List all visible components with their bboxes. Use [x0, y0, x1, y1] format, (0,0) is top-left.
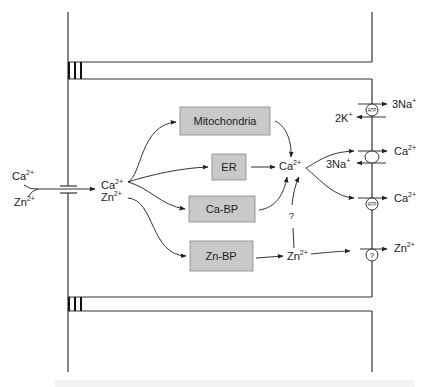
arrow-zn-bp-to-zn: [256, 256, 283, 258]
arrow-ca-to-atpase: [306, 168, 354, 198]
er-label: ER: [221, 161, 236, 173]
ca-bp-label: Ca-BP: [206, 203, 238, 215]
unknown-link-label: ?: [289, 211, 294, 221]
exchanger-ca-out-label: Ca2+: [394, 144, 416, 157]
arrow-to-zn-bp: [128, 198, 186, 256]
arrow-to-ca-bp: [128, 182, 185, 209]
na-out-label: 3Na+: [392, 97, 416, 110]
transporter-na-ca-exchanger: Ca2+ 3Na+: [326, 144, 416, 170]
cytosol-ions: Ca2+ Zn2+: [101, 178, 123, 203]
distribution-arrows: [128, 122, 208, 256]
exchanger-na-in-label: 3Na+: [326, 157, 350, 170]
svg-text:?: ?: [370, 251, 375, 260]
transporter-ca-atpase: ATP Ca2+: [358, 191, 416, 210]
box-ca-bp: Ca-BP: [189, 196, 255, 222]
box-er: ER: [212, 154, 246, 180]
central-zn-pool: Zn2+ ?: [256, 177, 350, 262]
arrow-mitochondria-to-ca: [275, 121, 291, 157]
arrow-ca-bp-to-ca: [259, 177, 287, 210]
box-mitochondria: Mitochondria: [180, 107, 270, 135]
cytosol-zn-label: Zn2+: [101, 190, 122, 203]
zn-out-label: Zn2+: [394, 241, 415, 254]
svg-text:ATP: ATP: [368, 108, 376, 113]
ca-atpase-out-label: Ca2+: [394, 191, 416, 204]
arrow-zn-to-transporter: [311, 251, 350, 254]
transporter-na-k-atpase: ATP 3Na+ 2K+: [335, 97, 416, 124]
outside-ca-label: Ca2+: [12, 169, 34, 182]
outside-zn-label: Zn2+: [14, 195, 35, 208]
transporter-zn: ? Zn2+: [360, 241, 415, 261]
box-zn-bp: Zn-BP: [190, 241, 253, 271]
tight-junction-bottom: [69, 297, 81, 311]
mitochondria-label: Mitochondria: [194, 115, 258, 127]
caption-fragment: [55, 380, 415, 387]
outside-ions: Ca2+ Zn2+: [12, 169, 95, 208]
central-zn-label: Zn2+: [287, 249, 308, 262]
ca-entry-curve: [24, 185, 38, 189]
central-ca-label: Ca2+: [279, 159, 301, 172]
zn-bp-label: Zn-BP: [205, 250, 236, 262]
exchanger-icon: [365, 151, 379, 163]
arrow-to-er: [128, 167, 208, 182]
svg-text:ATP: ATP: [368, 202, 376, 207]
k-in-label: 2K+: [335, 111, 353, 124]
arrow-to-mitochondria: [128, 122, 176, 182]
diagram-canvas: Ca2+ Zn2+ Ca2+ Zn2+ Mitochondria ER Ca-B…: [0, 0, 429, 387]
tight-junction-top: [69, 62, 81, 79]
